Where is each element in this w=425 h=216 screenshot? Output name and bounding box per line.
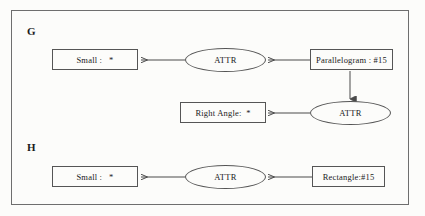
diagram-canvas: G Small : * ATTR Parallelogram : #15 Rig…	[0, 0, 425, 216]
node-attr-h[interactable]: ATTR	[185, 165, 266, 189]
node-attr-g-2[interactable]: ATTR	[310, 101, 391, 125]
node-rectangle-h[interactable]: Rectangle:#15	[312, 166, 385, 187]
node-small-g[interactable]: Small : *	[52, 49, 138, 70]
node-attr-g-1[interactable]: ATTR	[185, 48, 266, 72]
node-parallelogram-g[interactable]: Parallelogram : #15	[310, 49, 393, 70]
node-small-h[interactable]: Small : *	[52, 166, 138, 187]
node-right-angle-g[interactable]: Right Angle: *	[180, 102, 266, 123]
section-label-g: G	[27, 26, 36, 37]
section-label-h: H	[27, 142, 36, 153]
